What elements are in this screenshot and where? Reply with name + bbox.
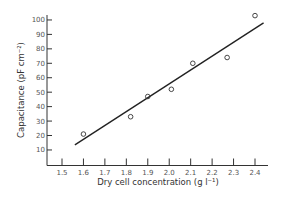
y-tick-label: 30 xyxy=(36,118,45,126)
y-tick-label: 60 xyxy=(36,74,45,82)
y-tick-label: 50 xyxy=(36,89,45,97)
x-tick-label: 1.7 xyxy=(99,169,110,177)
chart: 102030405060708090100 1.51.61.71.81.92.0… xyxy=(0,0,289,200)
data-point-circle xyxy=(169,87,174,92)
x-tick-label: 2.1 xyxy=(185,169,196,177)
x-tick-label: 2.0 xyxy=(164,169,175,177)
data-point-circle xyxy=(128,114,133,119)
x-tick-label: 1.6 xyxy=(78,169,90,177)
x-tick-label: 1.8 xyxy=(121,169,132,177)
data-point-circle xyxy=(191,61,196,66)
data-point-circle xyxy=(225,55,230,60)
y-axis-label: Capacitance (pF cm⁻²) xyxy=(16,42,26,138)
y-tick-label: 70 xyxy=(36,60,45,68)
x-tick-label: 2.4 xyxy=(249,169,261,177)
y-tick-label: 90 xyxy=(36,31,45,39)
x-ticks: 1.51.61.71.81.92.02.12.22.32.4 xyxy=(56,159,261,178)
x-tick-label: 2.2 xyxy=(207,169,218,177)
regression-line xyxy=(75,23,264,145)
x-tick-label: 1.5 xyxy=(56,169,67,177)
y-tick-label: 80 xyxy=(36,45,45,53)
x-tick-label: 2.3 xyxy=(228,169,239,177)
data-point-circle xyxy=(253,13,258,18)
data-points xyxy=(81,13,257,136)
y-tick-label: 10 xyxy=(36,146,45,154)
x-tick-label: 1.9 xyxy=(142,169,153,177)
fit-line xyxy=(75,23,264,145)
y-tick-label: 100 xyxy=(32,16,45,24)
x-axis-label: Dry cell concentration (g l⁻¹) xyxy=(97,177,219,187)
data-point-circle xyxy=(81,132,86,137)
axes xyxy=(47,15,268,166)
y-tick-label: 20 xyxy=(36,132,45,140)
y-tick-label: 40 xyxy=(36,103,45,111)
y-ticks: 102030405060708090100 xyxy=(32,16,52,154)
